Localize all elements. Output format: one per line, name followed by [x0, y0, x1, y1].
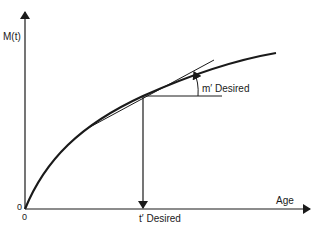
tangent-line — [90, 60, 214, 127]
x-axis-label: Age — [276, 195, 294, 206]
origin-y-label: 0 — [17, 202, 22, 212]
slope-label: m′ Desired — [202, 83, 249, 94]
time-label: t′ Desired — [139, 213, 181, 224]
y-axis-label: M(t) — [3, 31, 21, 42]
origin-x-label: 0 — [22, 212, 27, 222]
diagram-canvas: M(t) Age 0 0 m′ Desired t′ Desired — [0, 0, 322, 229]
growth-curve — [25, 53, 276, 209]
